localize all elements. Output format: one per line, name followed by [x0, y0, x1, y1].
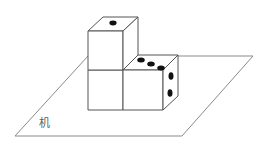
- geometry-figure: 机: [0, 0, 263, 143]
- right-cube-top-pip-1: [137, 58, 145, 63]
- top-cube-top-pip-1: [109, 21, 116, 26]
- figure-canvas: 机: [0, 0, 263, 143]
- right-cube-right-pip-1: [169, 72, 174, 80]
- right-cube-top-pip-3: [157, 66, 165, 71]
- right-cube: [123, 55, 178, 110]
- top-cube: [88, 17, 138, 70]
- top-cube-front-face: [88, 31, 123, 70]
- left-lower-cube: [88, 70, 123, 110]
- right-cube-front-face: [123, 70, 163, 110]
- right-cube-top-pip-2: [147, 62, 155, 67]
- left-lower-cube-front-face: [88, 70, 123, 110]
- right-cube-right-pip-2: [168, 89, 173, 97]
- table-surface-label: 机: [39, 116, 50, 130]
